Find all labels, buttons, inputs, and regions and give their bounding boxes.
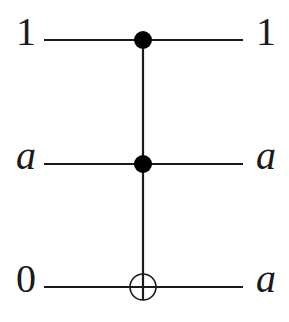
wire-output-label-2: a [246, 259, 286, 299]
wire-input-label-2: 0 [6, 259, 46, 299]
wire-input-label-0: 1 [6, 12, 46, 52]
wire-input-label-1: a [6, 136, 46, 176]
quantum-circuit-figure: 1 1 a a 0 a [0, 0, 289, 322]
control-dot-icon-0 [134, 31, 152, 49]
wire-output-label-1: a [246, 136, 286, 176]
wire-output-label-0: 1 [246, 12, 286, 52]
control-dot-icon-1 [134, 155, 152, 173]
